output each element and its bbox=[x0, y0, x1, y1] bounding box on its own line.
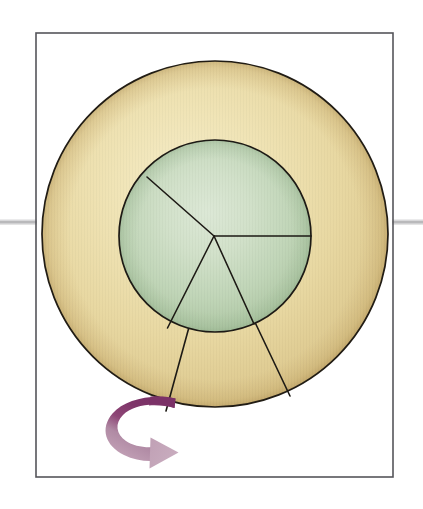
figure-root: Rotating disk with sector and rotation a… bbox=[0, 0, 423, 509]
diagram-canvas bbox=[0, 0, 423, 509]
